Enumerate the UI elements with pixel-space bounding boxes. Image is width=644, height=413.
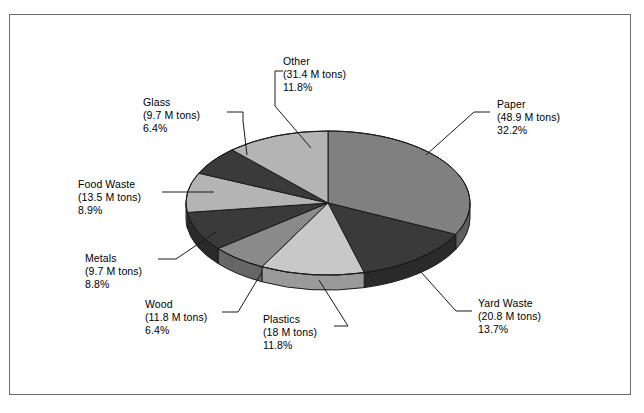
label-other-name: Other: [283, 55, 346, 68]
label-food-waste-value: (13.5 M tons): [78, 191, 141, 204]
label-other-percent: 11.8%: [283, 81, 346, 94]
pie-chart-figure: Other (31.4 M tons) 11.8% Glass (9.7 M t…: [0, 0, 644, 413]
label-wood: Wood (11.8 M tons) 6.4%: [145, 298, 207, 338]
label-yard-waste-percent: 13.7%: [478, 323, 541, 336]
label-plastics-name: Plastics: [263, 313, 317, 326]
leader-line-yard-waste: [421, 272, 472, 311]
label-plastics: Plastics (18 M tons) 11.8%: [263, 313, 317, 353]
label-metals-name: Metals: [85, 252, 142, 265]
label-paper-name: Paper: [497, 98, 560, 111]
label-metals-percent: 8.8%: [85, 278, 142, 291]
label-paper-percent: 32.2%: [497, 124, 560, 137]
leader-line-paper: [426, 112, 490, 155]
label-yard-waste-value: (20.8 M tons): [478, 310, 541, 323]
label-food-waste: Food Waste (13.5 M tons) 8.9%: [78, 178, 141, 218]
label-yard-waste-name: Yard Waste: [478, 297, 541, 310]
pie-top-faces: [186, 131, 470, 275]
label-yard-waste: Yard Waste (20.8 M tons) 13.7%: [478, 297, 541, 337]
label-other: Other (31.4 M tons) 11.8%: [283, 55, 346, 95]
label-metals-value: (9.7 M tons): [85, 265, 142, 278]
label-wood-percent: 6.4%: [145, 324, 207, 337]
label-glass-percent: 6.4%: [143, 122, 200, 135]
label-glass-value: (9.7 M tons): [143, 109, 200, 122]
label-food-waste-percent: 8.9%: [78, 204, 141, 217]
label-plastics-value: (18 M tons): [263, 326, 317, 339]
label-other-value: (31.4 M tons): [283, 68, 346, 81]
label-paper: Paper (48.9 M tons) 32.2%: [497, 98, 560, 138]
label-wood-name: Wood: [145, 298, 207, 311]
label-glass: Glass (9.7 M tons) 6.4%: [143, 96, 200, 136]
label-plastics-percent: 11.8%: [263, 339, 317, 352]
label-food-waste-name: Food Waste: [78, 178, 141, 191]
label-metals: Metals (9.7 M tons) 8.8%: [85, 252, 142, 292]
label-glass-name: Glass: [143, 96, 200, 109]
label-wood-value: (11.8 M tons): [145, 311, 207, 324]
label-paper-value: (48.9 M tons): [497, 111, 560, 124]
